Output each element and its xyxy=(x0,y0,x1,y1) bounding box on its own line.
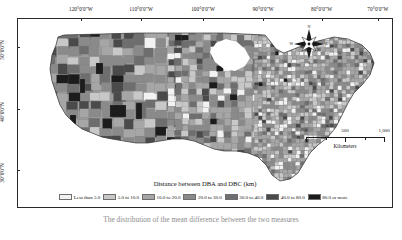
county-polygon xyxy=(308,159,313,163)
county-polygon xyxy=(223,173,232,179)
county-polygon xyxy=(99,92,109,101)
county-polygon xyxy=(346,64,350,68)
county-polygon xyxy=(317,158,321,162)
county-polygon xyxy=(338,86,342,90)
county-polygon xyxy=(296,116,301,120)
county-polygon xyxy=(300,169,304,173)
county-polygon xyxy=(329,105,334,109)
county-polygon xyxy=(223,29,231,36)
county-polygon xyxy=(135,136,145,145)
county-polygon xyxy=(196,161,203,168)
county-polygon xyxy=(355,155,360,159)
county-polygon xyxy=(368,86,373,90)
county-polygon xyxy=(301,135,305,139)
county-polygon xyxy=(313,151,317,155)
county-polygon xyxy=(322,170,326,174)
county-polygon xyxy=(363,59,367,62)
county-polygon xyxy=(291,90,296,93)
county-polygon xyxy=(359,98,364,102)
county-polygon xyxy=(253,86,258,89)
county-polygon xyxy=(203,53,210,59)
county-polygon xyxy=(317,170,322,174)
county-polygon xyxy=(347,158,352,162)
county-polygon xyxy=(271,36,275,40)
county-polygon xyxy=(288,94,293,98)
county-polygon xyxy=(313,173,318,177)
county-polygon xyxy=(342,48,347,52)
county-polygon xyxy=(346,154,350,159)
county-polygon xyxy=(254,162,259,167)
county-polygon xyxy=(167,142,174,148)
county-polygon xyxy=(300,113,304,117)
legend-label: Less than 5.0 xyxy=(74,195,101,200)
county-polygon xyxy=(326,71,330,74)
county-polygon xyxy=(283,116,287,119)
county-polygon xyxy=(304,170,309,174)
county-polygon xyxy=(330,173,335,177)
county-polygon xyxy=(363,117,367,121)
county-polygon xyxy=(363,155,367,159)
county-polygon xyxy=(276,40,280,45)
county-polygon xyxy=(355,166,359,171)
county-polygon xyxy=(343,173,347,177)
county-polygon xyxy=(296,71,301,75)
county-polygon xyxy=(338,71,342,75)
county-polygon xyxy=(174,53,180,59)
county-polygon xyxy=(347,48,351,52)
county-polygon xyxy=(270,90,275,93)
county-polygon xyxy=(266,101,270,104)
county-polygon xyxy=(169,167,177,173)
county-polygon xyxy=(343,121,348,124)
county-polygon xyxy=(259,139,263,142)
county-polygon xyxy=(169,161,177,166)
county-polygon xyxy=(329,78,334,82)
county-polygon xyxy=(330,98,335,101)
county-polygon xyxy=(334,29,339,34)
county-polygon xyxy=(364,106,368,110)
county-polygon xyxy=(89,109,101,117)
county-polygon xyxy=(359,101,364,106)
county-polygon xyxy=(197,131,204,139)
county-polygon xyxy=(145,137,155,145)
county-polygon xyxy=(231,89,238,95)
county-polygon xyxy=(376,117,381,122)
county-polygon xyxy=(321,109,325,113)
county-polygon xyxy=(376,109,381,113)
county-polygon xyxy=(89,137,99,145)
county-polygon xyxy=(67,29,78,39)
county-polygon xyxy=(271,116,275,121)
county-polygon xyxy=(188,89,196,95)
county-polygon xyxy=(244,142,251,147)
county-polygon xyxy=(231,166,237,172)
county-polygon xyxy=(372,150,377,155)
county-polygon xyxy=(347,150,351,154)
county-polygon xyxy=(288,135,292,139)
county-polygon xyxy=(245,112,252,119)
legend-item: 10.0 to 20.0 xyxy=(142,194,180,200)
county-polygon xyxy=(182,144,189,151)
county-polygon xyxy=(45,39,55,48)
county-polygon xyxy=(254,189,258,193)
county-polygon xyxy=(146,163,159,172)
county-polygon xyxy=(176,167,182,174)
county-polygon xyxy=(157,165,169,176)
county-polygon xyxy=(334,189,338,194)
county-polygon xyxy=(275,78,279,82)
county-polygon xyxy=(375,98,380,102)
county-polygon xyxy=(133,37,145,46)
county-polygon xyxy=(359,188,363,192)
county-polygon xyxy=(351,101,356,105)
county-polygon xyxy=(300,75,305,79)
county-polygon xyxy=(375,37,380,41)
county-polygon xyxy=(224,161,231,167)
county-polygon xyxy=(258,56,262,60)
county-polygon xyxy=(368,32,372,36)
county-polygon xyxy=(238,155,246,162)
county-polygon xyxy=(283,124,287,128)
county-polygon xyxy=(155,156,167,166)
county-polygon xyxy=(359,78,363,83)
county-polygon xyxy=(309,169,314,174)
county-polygon xyxy=(288,143,292,146)
county-polygon xyxy=(57,55,69,64)
county-polygon xyxy=(203,102,210,108)
